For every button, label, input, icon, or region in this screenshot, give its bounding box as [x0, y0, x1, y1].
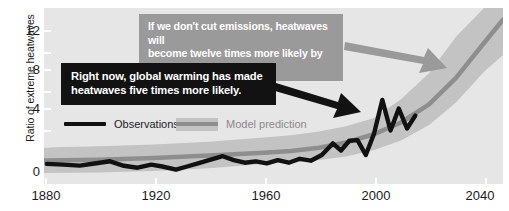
callout-black-line2: heatwaves five times more likely.	[71, 83, 267, 97]
legend-label-model-prediction: Model prediction	[226, 118, 307, 130]
legend-label-observations: Observations	[114, 118, 179, 130]
x-tick-label-1920: 1920	[126, 188, 186, 203]
callout-gray-line1: If we don't cut emissions, heatwaves wil…	[148, 20, 334, 47]
y-tick-label-12: 12	[14, 23, 40, 38]
x-tick-label-1960: 1960	[236, 188, 296, 203]
legend-line-swatch-icon	[64, 122, 106, 126]
chart-figure: Ratio of extreme heatwaves 12 8 4 0 1880…	[0, 0, 509, 211]
callout-black: Right now, global warming has made heatw…	[61, 63, 276, 105]
legend-item-observations: Observations	[64, 115, 179, 133]
legend-item-model-prediction: Model prediction	[176, 115, 307, 133]
y-tick-label-4: 4	[14, 101, 40, 116]
x-tick-label-2040: 2040	[450, 188, 509, 203]
callout-black-line1: Right now, global warming has made	[71, 69, 267, 83]
y-tick-label-8: 8	[14, 62, 40, 77]
x-tick-label-1880: 1880	[16, 188, 76, 203]
legend-band-swatch-icon	[176, 118, 218, 131]
y-tick-label-0: 0	[14, 164, 40, 179]
x-tick-label-2000: 2000	[346, 188, 406, 203]
